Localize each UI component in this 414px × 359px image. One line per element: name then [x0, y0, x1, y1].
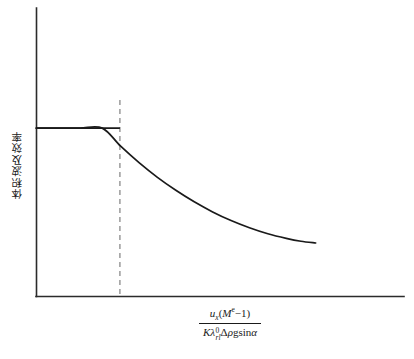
- numerator-close-paren: ): [247, 307, 251, 319]
- x-axis-label-denominator: Kλ0rlΔρgsinα: [199, 324, 261, 341]
- chart-figure: 体积波及效率 ux(Me−1) Kλ0rlΔρgsinα: [0, 0, 414, 359]
- denominator-alpha: α: [251, 327, 257, 339]
- denominator-lambda: λ: [210, 327, 215, 339]
- numerator-minus-one: −1: [235, 307, 247, 319]
- denominator-lambda-scripts: 0rl: [216, 327, 221, 342]
- denominator-delta: Δ: [221, 327, 228, 339]
- denominator-lambda-subscript: rl: [216, 334, 221, 342]
- denominator-sin: sin: [238, 327, 251, 339]
- x-axis-label: ux(Me−1) Kλ0rlΔρgsinα: [155, 306, 305, 341]
- y-axis-label: 体积波及效率: [5, 110, 31, 220]
- x-axis-label-numerator: ux(Me−1): [206, 306, 254, 323]
- x-axis-label-fraction: ux(Me−1) Kλ0rlΔρgsinα: [199, 306, 261, 341]
- decay-curve: [36, 127, 316, 243]
